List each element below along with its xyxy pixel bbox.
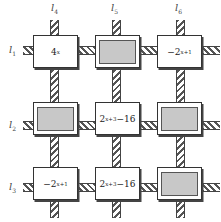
column-label-l4: l4 — [51, 2, 58, 15]
shaded-fill — [161, 172, 198, 196]
shaded-fill — [37, 107, 74, 131]
column-label-l6: l6 — [175, 2, 182, 15]
shaded-fill — [99, 40, 136, 64]
cell-r3-c1: −2x+1 — [33, 167, 78, 200]
row-label-l1: l1 — [9, 44, 16, 57]
cell-r1-c3: −2x+1 — [157, 35, 202, 68]
shaded-fill — [161, 107, 198, 131]
column-label-l5: l5 — [111, 2, 118, 15]
row-label-l3: l3 — [9, 181, 16, 194]
cell-r2-c2: 2x+3−16 — [95, 102, 140, 135]
cell-r1-c1: 4x — [33, 35, 78, 68]
cell-r1-c2-shaded — [95, 35, 140, 68]
cell-r2-c1-shaded — [33, 102, 78, 135]
cell-r3-c3-shaded — [157, 167, 202, 200]
cell-r2-c3-shaded — [157, 102, 202, 135]
cell-r3-c2: 2x+3−16 — [95, 167, 140, 200]
row-label-l2: l2 — [9, 119, 16, 132]
